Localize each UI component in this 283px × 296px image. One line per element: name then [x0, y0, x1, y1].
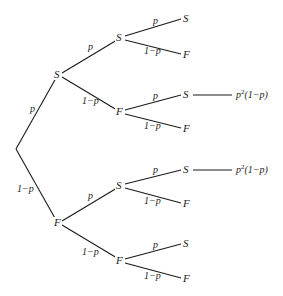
- node-failure: F: [182, 273, 191, 284]
- edge-label-1-p: 1−p: [82, 247, 99, 257]
- edge-label-p: p: [30, 104, 35, 114]
- tree-edges: [0, 0, 283, 296]
- edge-label-p: p: [153, 165, 158, 175]
- node-success: S: [182, 164, 190, 175]
- outcome-probability: p2(1−p): [236, 90, 268, 100]
- edge-label-1-p: 1−p: [17, 184, 34, 194]
- outcome-factor: (1−p): [245, 89, 268, 100]
- outcome-probability: p2(1−p): [236, 165, 268, 175]
- node-failure: F: [182, 49, 191, 60]
- node-failure: F: [115, 106, 124, 117]
- edge-label-1-p: 1−p: [144, 196, 161, 206]
- edge-label-1-p: 1−p: [144, 121, 161, 131]
- edge-label-p: p: [88, 191, 93, 201]
- node-success: S: [182, 238, 190, 249]
- node-failure: F: [182, 123, 191, 134]
- node-success: S: [115, 32, 123, 43]
- outcome-factor: (1−p): [245, 164, 268, 175]
- node-failure: F: [182, 198, 191, 209]
- edge-label-1-p: 1−p: [144, 46, 161, 56]
- edge-label-p: p: [153, 91, 158, 101]
- edge-label-p: p: [153, 16, 158, 26]
- edge-label-p: p: [153, 240, 158, 250]
- node-success: S: [53, 69, 61, 80]
- node-failure: F: [53, 217, 62, 228]
- node-success: S: [115, 180, 123, 191]
- edge-label-1-p: 1−p: [82, 96, 99, 106]
- edge-label-p: p: [88, 42, 93, 52]
- edge-label-1-p: 1−p: [144, 271, 161, 281]
- node-success: S: [182, 13, 190, 24]
- node-failure: F: [115, 255, 124, 266]
- node-success: S: [182, 89, 190, 100]
